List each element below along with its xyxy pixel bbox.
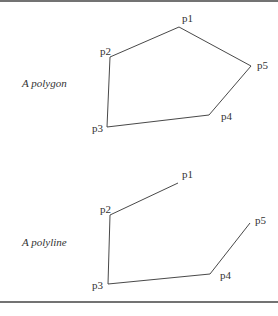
polygon-caption: A polygon [21,77,67,89]
polyline-diagram: A polyline p1p2p3p4p5 [21,168,267,291]
vertex-label-p5: p5 [255,214,267,226]
vertex-label-p4: p4 [221,110,233,122]
vertex-label-p1: p1 [182,12,193,24]
polygon-diagram: A polygon p1p2p3p4p5 [21,12,269,134]
vertex-label-p5: p5 [257,59,269,71]
vertex-label-p1: p1 [182,168,193,180]
vertex-label-p2: p2 [100,203,111,215]
polyline-caption: A polyline [21,236,67,248]
polyline-vertex-labels: p1p2p3p4p5 [92,168,267,291]
polygon-vertex-labels: p1p2p3p4p5 [92,12,269,134]
vertex-label-p3: p3 [92,122,104,134]
vertex-label-p3: p3 [92,279,104,291]
vertex-label-p4: p4 [220,269,232,281]
vertex-label-p2: p2 [100,45,111,57]
figure-canvas: A polygon p1p2p3p4p5 A polyline p1p2p3p4… [0,0,278,316]
